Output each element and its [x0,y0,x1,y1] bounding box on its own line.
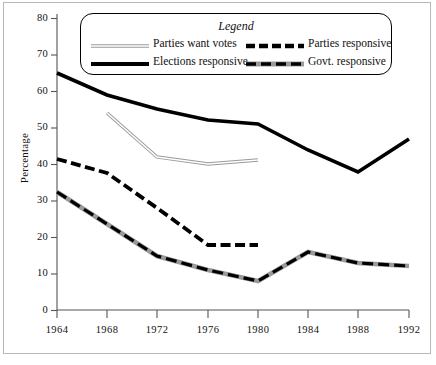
x-tick-1988: 1988 [335,324,381,335]
y-tick-40: 40 [22,158,48,169]
x-tick-1964: 1964 [34,324,80,335]
series-parties-responsive [57,159,258,245]
y-tick-20: 20 [22,231,48,242]
y-tick-60: 60 [22,85,48,96]
chart-legend: Legend Parties want votes Parties respon… [80,13,392,75]
legend-label: Elections responsive [153,55,248,67]
y-tick-30: 30 [22,194,48,205]
y-tick-80: 80 [22,12,48,23]
y-axis-ticks [51,19,57,311]
legend-title: Legend [81,19,391,34]
legend-label: Parties want votes [153,37,237,49]
y-tick-10: 10 [22,267,48,278]
series-govt-responsive-outline [57,192,409,281]
x-tick-1984: 1984 [285,324,331,335]
x-tick-1972: 1972 [134,324,180,335]
y-tick-0: 0 [22,304,48,315]
legend-label: Govt. responsive [308,55,386,67]
x-tick-1968: 1968 [84,324,130,335]
x-axis-ticks [57,310,409,318]
y-tick-70: 70 [22,48,48,59]
series-elections-responsive [57,73,409,172]
thin-outline-swatch-icon [91,42,149,50]
legend-label: Parties responsive [308,37,391,49]
x-tick-1992: 1992 [386,324,432,335]
series-govt-responsive [57,192,409,281]
x-tick-1976: 1976 [185,324,231,335]
thick-solid-swatch-icon [91,60,149,68]
y-tick-50: 50 [22,121,48,132]
thick-dashed-outline-swatch-icon [246,60,304,68]
x-tick-1980: 1980 [235,324,281,335]
thick-dashed-swatch-icon [246,42,304,50]
chart-page: Percentage 80 70 60 50 40 30 20 10 0 196… [0,0,436,365]
